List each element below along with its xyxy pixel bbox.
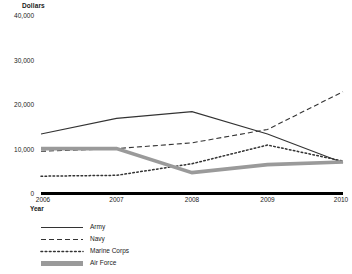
legend-label: Marine Corps [90,247,129,254]
x-tick-label: 2007 [99,196,135,203]
x-tick-label: 2006 [25,196,61,203]
series-line-navy [41,92,343,152]
solid-line-swatch [40,222,84,233]
legend-label: Army [90,223,105,230]
y-tick-label: 20,000 [0,101,34,108]
series-line-army [41,112,343,163]
x-tick-label: 2010 [323,196,352,203]
plot-area [41,16,343,194]
x-axis-line [41,192,343,195]
dotted-line-swatch [40,246,84,257]
thick-gray-line-swatch [40,258,84,269]
line-chart: Dollars 010,00020,00030,00040,000 200620… [0,0,352,274]
x-axis-title: Year [30,205,44,212]
series-lines [41,16,343,194]
x-tick-label: 2009 [250,196,286,203]
x-tick-label: 2008 [174,196,210,203]
y-tick-label: 10,000 [0,146,34,153]
y-tick-label: 40,000 [0,12,34,19]
legend-label: Navy [90,235,105,242]
dashed-line-swatch [40,234,84,245]
y-tick-label: 30,000 [0,57,34,64]
legend-label: Air Force [90,259,116,266]
y-axis-title: Dollars [22,2,45,9]
